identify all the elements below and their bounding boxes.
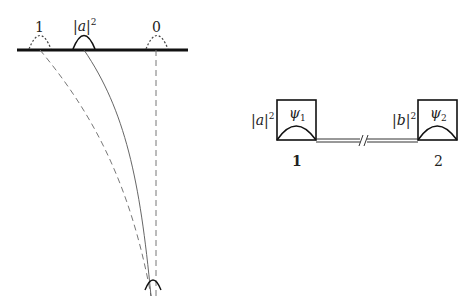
- break-mark-1: [359, 135, 363, 146]
- box2-probability: |b|2: [392, 112, 416, 127]
- trajectory-solid: [84, 50, 151, 296]
- box2-psi-sub: 2: [441, 113, 447, 123]
- break-mark-2: [364, 135, 368, 146]
- peak-right-dotted: [146, 36, 168, 50]
- box1-probability: |a|2: [251, 112, 275, 127]
- box2-psi-base: ψ: [430, 105, 441, 121]
- wavefunction-1: [277, 126, 316, 140]
- box1-index: 1: [292, 154, 302, 168]
- screen-label-middle-sup: 2: [91, 17, 97, 27]
- peak-middle-solid: [73, 36, 95, 50]
- wavefunction-2: [418, 126, 457, 140]
- source-peak: [145, 280, 161, 290]
- box1-prob-sup: 2: [269, 111, 275, 121]
- box2-index: 2: [434, 154, 443, 168]
- diagram-canvas: [0, 0, 466, 298]
- screen-label-middle-base: |a|: [73, 18, 91, 34]
- box2-prob-base: |b|: [392, 112, 410, 128]
- screen-label-left: 1: [35, 20, 44, 34]
- trajectory-dashed-left: [40, 50, 151, 296]
- box2-psi: ψ2: [430, 106, 447, 123]
- box1-psi-base: ψ: [289, 105, 300, 121]
- peak-left-dotted: [29, 36, 51, 50]
- box1-psi-sub: 1: [300, 113, 306, 123]
- box2-prob-sup: 2: [410, 111, 416, 121]
- box1-psi: ψ1: [289, 106, 306, 123]
- screen-label-right: 0: [152, 20, 161, 34]
- screen-label-middle: |a|2: [73, 18, 97, 33]
- box1-prob-base: |a|: [251, 112, 269, 128]
